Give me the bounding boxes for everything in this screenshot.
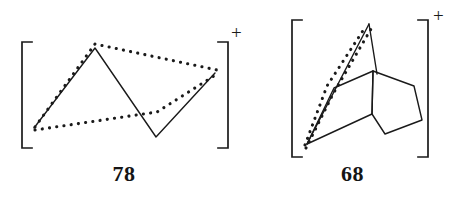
- structure-panel-78: + 78: [0, 0, 250, 199]
- charge-superscript-78: +: [231, 22, 242, 43]
- charge-superscript-68: +: [433, 5, 444, 26]
- left-bracket-68: [292, 20, 302, 157]
- structure-panel-68: + 68: [250, 0, 463, 199]
- dotted-bonds-78: [35, 44, 217, 130]
- right-bracket-68: [418, 20, 428, 157]
- structure-label-68: 68: [246, 163, 459, 185]
- figure-root: + 78: [0, 0, 463, 199]
- left-bracket-78: [22, 42, 32, 148]
- right-bracket-78: [218, 42, 228, 148]
- structure-label-78: 78: [0, 163, 249, 185]
